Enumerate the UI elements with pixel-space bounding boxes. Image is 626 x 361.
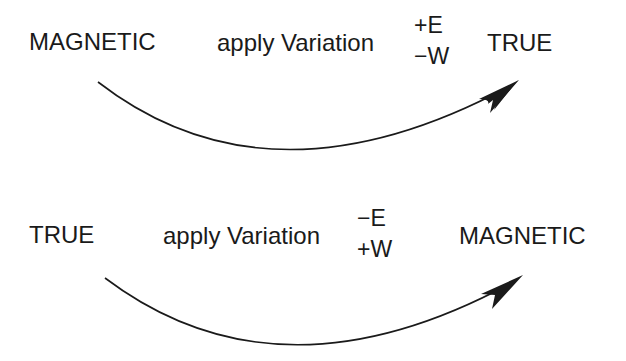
curved-arrow-icon [98, 80, 519, 150]
arrows [0, 0, 626, 361]
curved-arrow-icon [105, 275, 523, 345]
